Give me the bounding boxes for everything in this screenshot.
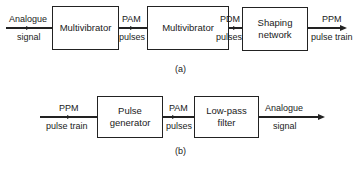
block-label-line1: Shaping [258, 17, 293, 29]
block-label-line2: network [258, 29, 291, 41]
block-low-pass-filter: Low-pass filter [194, 96, 259, 138]
block-shaping-network: Shaping network [242, 7, 308, 51]
block-label-line2: filter [218, 117, 236, 129]
arrow-marker-icon [172, 115, 176, 119]
block-multivibrator-1: Multivibrator [52, 6, 119, 50]
block-label: Multivibrator [162, 22, 214, 34]
link-label-top: PAM [122, 14, 141, 24]
link-label-bottom: pulses [214, 32, 244, 42]
input-label-top: Analogue [9, 14, 47, 24]
caption-b: (b) [175, 146, 186, 156]
block-multivibrator-2: Multivibrator [147, 6, 229, 50]
input-label-bottom: signal [17, 32, 41, 42]
arrow-marker-icon [67, 115, 71, 119]
output-label-bottom: pulse train [311, 32, 353, 42]
arrow-marker-icon [26, 26, 30, 30]
arrowhead-icon [340, 25, 347, 31]
output-label-top: Analogue [265, 103, 303, 113]
output-label-top: PPM [322, 14, 342, 24]
link-label-bottom: pulses [119, 32, 145, 42]
block-label-line2: generator [110, 117, 151, 129]
input-label-bottom: pulse train [46, 121, 88, 131]
caption-a: (a) [175, 64, 186, 74]
link-label-top: PAM [169, 103, 188, 113]
block-pulse-generator: Pulse generator [97, 96, 163, 138]
block-label-line1: Pulse [118, 105, 142, 117]
arrow-marker-icon [130, 26, 134, 30]
signal-line-b [40, 116, 320, 118]
arrowhead-icon [318, 114, 325, 120]
block-label: Multivibrator [60, 22, 112, 34]
output-label-bottom: signal [273, 121, 297, 131]
link-label-bottom: pulses [166, 121, 192, 131]
arrow-marker-icon [233, 26, 237, 30]
block-label-line1: Low-pass [206, 105, 247, 117]
input-label-top: PPM [59, 103, 79, 113]
link-label-top: PDM [217, 14, 243, 24]
